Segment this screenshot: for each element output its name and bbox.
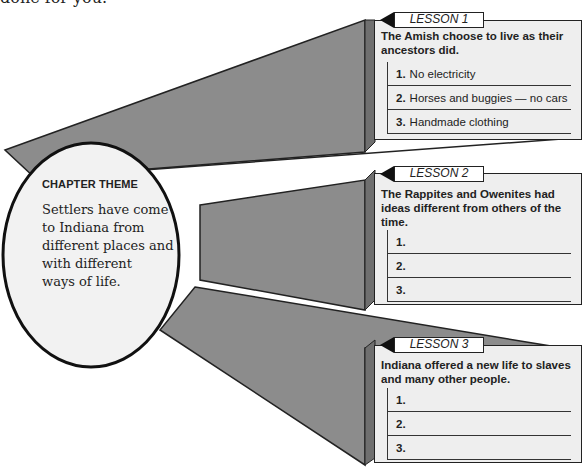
theme-line: to Indiana from (42, 219, 192, 237)
lesson-3-arrow-icon (380, 337, 394, 353)
item-number: 2. (396, 260, 406, 272)
lesson-2-tab: LESSON 2 (394, 166, 484, 182)
lesson-2-lead: The Rappites and Owenites had ideas diff… (381, 187, 581, 229)
lesson-3-item-3[interactable]: 3. (387, 436, 571, 460)
lesson-2-arrow-icon (380, 166, 394, 182)
lesson-3-item-1[interactable]: 1. (387, 388, 571, 412)
item-text: Horses and buggies — no cars (410, 92, 568, 104)
theme-line: ways of life. (42, 273, 192, 291)
item-number: 1. (396, 68, 406, 80)
item-number: 2. (396, 92, 406, 104)
item-number: 1. (396, 236, 406, 248)
item-text: Handmade clothing (410, 116, 509, 128)
lesson-1-lead: The Amish choose to live as their ancest… (381, 29, 581, 57)
item-number: 1. (396, 394, 406, 406)
item-number: 3. (396, 116, 406, 128)
lesson-2-item-2[interactable]: 2. (387, 254, 571, 278)
lesson-1-tab: LESSON 1 (394, 12, 484, 28)
lesson-2-item-1[interactable]: 1. (387, 230, 571, 254)
theme-line: with different (42, 255, 192, 273)
lesson-3-tab: LESSON 3 (394, 337, 484, 353)
lead-line: and many other people. (381, 372, 583, 386)
lead-line: ideas different from others of the (381, 201, 581, 215)
lesson-3-item-2[interactable]: 2. (387, 412, 571, 436)
item-text: No electricity (410, 68, 476, 80)
lesson-2-item-3[interactable]: 3. (387, 278, 571, 302)
connector-lesson-2 (200, 180, 365, 310)
lesson-2-box: The Rappites and Owenites had ideas diff… (374, 173, 582, 305)
lesson-1-arrow-icon (380, 12, 394, 28)
chapter-theme-body: Settlers have come to Indiana from diffe… (42, 201, 192, 291)
theme-line: different places and (42, 237, 192, 255)
item-number: 3. (396, 442, 406, 454)
lesson-1-box: The Amish choose to live as their ancest… (374, 20, 582, 140)
lead-line: The Rappites and Owenites had (381, 187, 581, 201)
chapter-theme-heading: CHAPTER THEME (42, 178, 192, 190)
lesson-3-lead: Indiana offered a new life to slaves and… (381, 358, 583, 386)
chapter-theme: CHAPTER THEME Settlers have come to Indi… (42, 178, 192, 291)
lead-line: ancestors did. (381, 43, 581, 57)
item-number: 3. (396, 284, 406, 296)
lesson-1-item-2[interactable]: 2.Horses and buggies — no cars (387, 86, 571, 110)
lesson-1-item-1[interactable]: 1.No electricity (387, 62, 571, 86)
item-number: 2. (396, 418, 406, 430)
lesson-3-box: Indiana offered a new life to slaves and… (374, 345, 582, 463)
lead-line: Indiana offered a new life to slaves (381, 358, 583, 372)
lead-line: The Amish choose to live as their (381, 29, 581, 43)
lesson-1-item-3[interactable]: 3.Handmade clothing (387, 110, 571, 134)
lead-line: time. (381, 215, 581, 229)
theme-line: Settlers have come (42, 201, 192, 219)
